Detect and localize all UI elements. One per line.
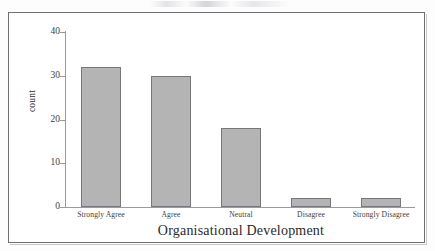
y-axis-tick-label: 40: [20, 27, 60, 37]
y-axis-tick-label: 20: [20, 115, 60, 125]
bar[interactable]: [221, 128, 261, 207]
x-axis-tick-label: Neutral: [206, 211, 276, 219]
bar-series-group: [66, 32, 416, 207]
y-axis-tick-label: 30: [20, 71, 60, 81]
y-axis-tick-mark: [60, 120, 65, 121]
bar-slot: [151, 32, 191, 207]
bar[interactable]: [291, 198, 331, 207]
y-axis-tick-label: 10: [20, 158, 60, 168]
bar-slot: [221, 32, 261, 207]
scan-noise-artifact: [150, 1, 290, 7]
bar-slot: [291, 32, 331, 207]
y-axis-title: count: [27, 66, 37, 136]
x-axis-tick-label: Strongly Agree: [66, 211, 136, 219]
bar-slot: [81, 32, 121, 207]
y-axis-tick-mark: [60, 163, 65, 164]
bar-slot: [361, 32, 401, 207]
bar-chart-figure: 010203040 count Strongly AgreeAgreeNeutr…: [0, 0, 435, 251]
x-axis-tick-label: Agree: [136, 211, 206, 219]
y-axis-tick-mark: [60, 207, 65, 208]
x-axis-tick-label: Disagree: [276, 211, 346, 219]
bar[interactable]: [151, 76, 191, 207]
x-axis-tick-label: Strongly Disagree: [346, 211, 416, 219]
y-axis-tick-label: 0: [20, 202, 60, 212]
y-axis-tick-mark: [60, 76, 65, 77]
y-axis-tick-mark: [60, 32, 65, 33]
bar[interactable]: [81, 67, 121, 207]
x-axis-line: [65, 207, 415, 208]
bar[interactable]: [361, 198, 401, 207]
x-axis-title: Organisational Development: [66, 224, 416, 238]
